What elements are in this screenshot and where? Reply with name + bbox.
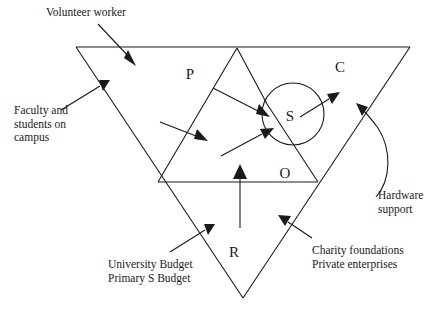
arrow-o-to-s xyxy=(221,128,274,156)
node-label-c: C xyxy=(335,59,345,75)
arrow-faculty-students xyxy=(61,80,110,110)
node-label-s: S xyxy=(286,108,294,124)
arrow-s-to-c xyxy=(300,92,340,117)
arrow-charity-foundations xyxy=(278,215,312,238)
node-label-p: P xyxy=(186,66,194,82)
node-label-r: R xyxy=(229,244,239,260)
annotation-hardware-support: Hardware support xyxy=(378,189,423,216)
diagram-canvas: P C S O R Volunteer worker Faculty and s… xyxy=(0,0,436,310)
annotation-charity-foundations: Charity foundations Private enterprises xyxy=(312,244,404,271)
annotation-volunteer-worker: Volunteer worker xyxy=(46,6,126,20)
arrow-r-upward xyxy=(233,164,247,228)
inner-small-triangle xyxy=(237,48,318,182)
annotation-faculty-students: Faculty and students on campus xyxy=(14,104,68,145)
arrow-university-budget xyxy=(170,224,215,252)
annotation-university-budget: University Budget Primary S Budget xyxy=(108,258,193,285)
node-label-o: O xyxy=(280,165,291,181)
arrow-p-to-s-upper xyxy=(213,88,270,117)
arrow-hardware-support xyxy=(356,103,388,197)
arrow-volunteer-worker xyxy=(98,24,136,66)
